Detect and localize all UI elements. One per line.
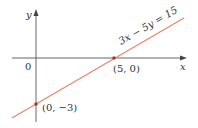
origin-label: 0 bbox=[25, 61, 31, 72]
point-0-neg3 bbox=[34, 102, 38, 106]
x-axis-arrow-icon bbox=[180, 56, 187, 61]
y-axis-arrow-icon bbox=[34, 9, 39, 16]
x-axis-label: x bbox=[180, 61, 186, 72]
point-5-0 bbox=[112, 56, 116, 60]
equation-line bbox=[12, 18, 184, 118]
y-axis-label: y bbox=[25, 9, 32, 20]
equation-label: 3x − 5y = 15 bbox=[117, 4, 180, 47]
point-label-0-neg3: (0, −3) bbox=[42, 102, 77, 113]
point-label-5-0: (5, 0) bbox=[113, 63, 140, 74]
coordinate-plane: y 0 x (5, 0) (0, −3) 3x − 5y = 15 bbox=[0, 0, 198, 128]
